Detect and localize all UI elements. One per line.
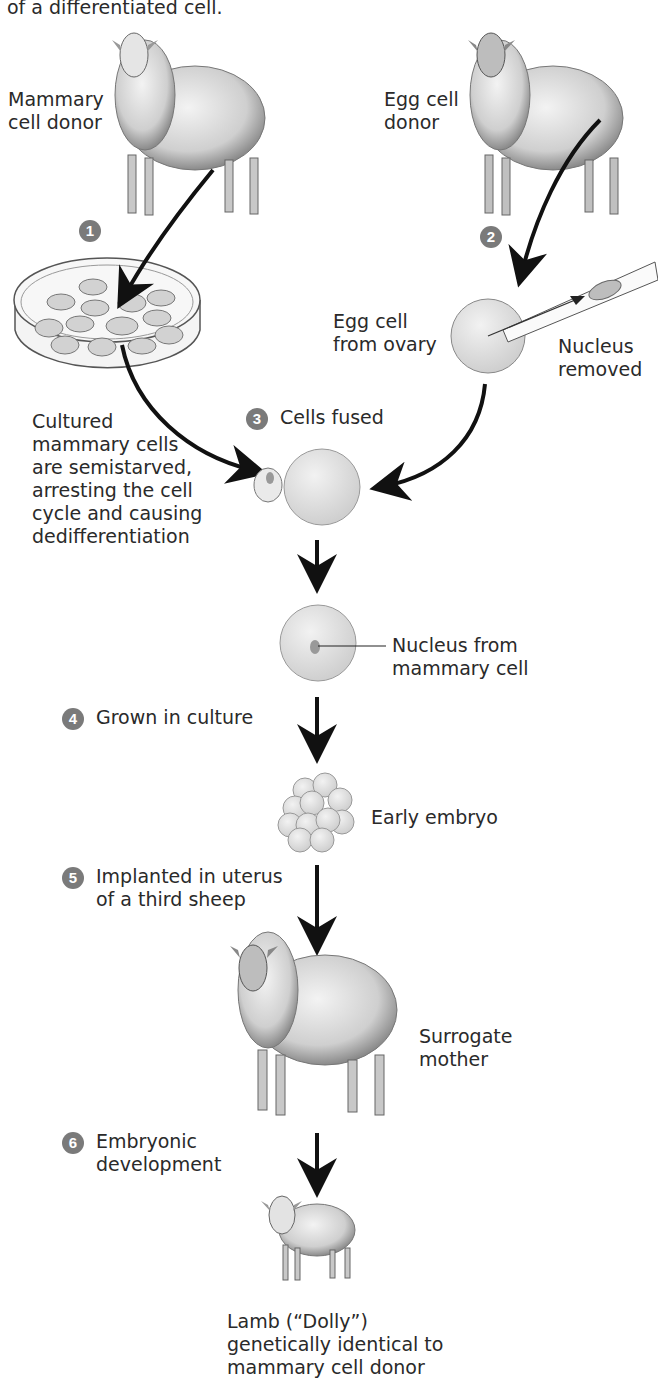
surrogate-mother-label: Surrogate mother	[419, 1025, 512, 1071]
step-6-badge: 6	[62, 1132, 84, 1154]
mammary-donor-label: Mammary cell donor	[8, 88, 104, 134]
step-5-label: Implanted in uterus of a third sheep	[96, 865, 283, 911]
mammary-donor-sheep-icon	[112, 33, 265, 215]
lamb-dolly-label: Lamb (“Dolly”) genetically identical to …	[227, 1310, 443, 1379]
egg-from-ovary-label: Egg cell from ovary	[333, 310, 437, 356]
egg-donor-sheep-icon	[468, 33, 623, 215]
step-3-badge: 3	[246, 408, 268, 430]
nucleus-from-mammary-label: Nucleus from mammary cell	[392, 634, 529, 680]
petri-dish-icon	[14, 258, 200, 368]
step-4-badge: 4	[62, 708, 84, 730]
early-embryo-label: Early embryo	[371, 806, 498, 829]
lamb-dolly-icon	[261, 1196, 355, 1280]
step-5-badge: 5	[62, 867, 84, 889]
cultured-cells-label: Cultured mammary cells are semistarved, …	[32, 410, 202, 548]
reconstructed-egg-icon	[280, 605, 386, 681]
early-embryo-icon	[278, 773, 354, 852]
surrogate-sheep-icon	[230, 932, 397, 1115]
step-1-badge: 1	[79, 220, 101, 242]
step-3-label: Cells fused	[280, 406, 384, 429]
diagram-artwork	[0, 0, 658, 1384]
fused-cells-icon	[254, 449, 360, 525]
nucleus-removed-label: Nucleus removed	[558, 335, 642, 381]
step-4-label: Grown in culture	[96, 706, 253, 729]
title-fragment: of a differentiated cell.	[7, 0, 223, 19]
step-6-label: Embryonic development	[96, 1130, 221, 1176]
step-2-badge: 2	[480, 226, 502, 248]
egg-donor-label: Egg cell donor	[384, 88, 459, 134]
